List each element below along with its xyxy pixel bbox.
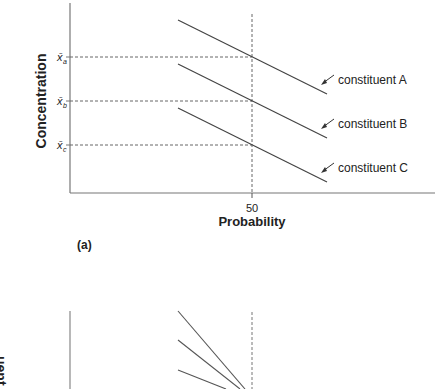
y-tick-label-c: x̄ c [56, 139, 67, 153]
figure: constituent A constituent B constituent … [0, 0, 439, 389]
y-tick-label-a: x̄ a [56, 51, 67, 65]
svg-text:a: a [63, 58, 67, 65]
y-tick-label-b: x̄ b [56, 95, 67, 109]
panel-b-chart: uent [0, 311, 252, 389]
label-constituent-b: constituent B [338, 117, 407, 131]
arrow-icon-c [321, 163, 334, 173]
panel-a-chart: constituent A constituent B constituent … [33, 3, 435, 252]
label-constituent-c: constituent C [338, 161, 408, 175]
label-constituent-a: constituent A [338, 73, 407, 87]
y-axis-label-b-fragment: uent [0, 356, 9, 386]
x-tick-label-50: 50 [246, 202, 258, 214]
svg-text:x̄: x̄ [56, 139, 63, 151]
series-b-line-1 [178, 311, 245, 389]
svg-text:x̄: x̄ [56, 51, 63, 63]
arrow-icon-a [321, 75, 334, 85]
svg-text:c: c [63, 146, 67, 153]
x-axis-label: Probability [218, 214, 286, 229]
svg-text:b: b [63, 102, 67, 109]
y-axis-label: Concentration [33, 54, 49, 149]
panel-label-a: (a) [77, 238, 92, 252]
arrow-icon-b [321, 119, 334, 129]
svg-text:x̄: x̄ [56, 95, 63, 107]
